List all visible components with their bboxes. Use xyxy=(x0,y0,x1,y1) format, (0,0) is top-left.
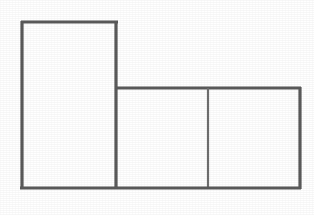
figure-canvas: Three adjoining rectangles outline drawi… xyxy=(0,0,314,215)
rectangles-diagram: Three adjoining rectangles outline drawi… xyxy=(0,0,314,215)
figure-background xyxy=(0,0,314,215)
